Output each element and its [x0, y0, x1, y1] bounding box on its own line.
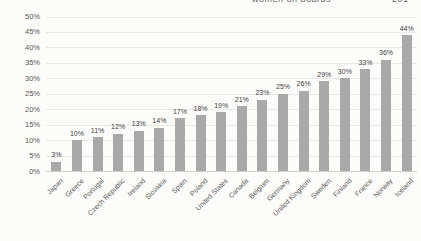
- bar-united-states: [216, 112, 226, 171]
- x-axis-category-label: Norway: [372, 177, 394, 199]
- x-axis-category-label: France: [353, 177, 373, 197]
- y-axis-tick-label: 15%: [0, 120, 40, 129]
- y-axis-tick-label: 25%: [0, 89, 40, 98]
- page-header-title: women on boards: [252, 0, 331, 4]
- gridline: [46, 32, 417, 33]
- bar-value-label: 44%: [394, 25, 420, 32]
- bar-ireland: [134, 131, 144, 171]
- bar-greece: [72, 140, 82, 171]
- x-axis-category-label: Japan: [46, 177, 64, 195]
- bar-value-label: 21%: [229, 96, 255, 103]
- y-axis-tick-label: 10%: [0, 136, 40, 145]
- bar-canada: [237, 106, 247, 171]
- x-axis-category-label: Iceland: [394, 177, 415, 198]
- x-axis-category-label: Canada: [227, 177, 249, 199]
- bar-france: [360, 69, 370, 171]
- bar-iceland: [402, 35, 412, 171]
- gridline: [46, 17, 417, 18]
- bar-value-label: 14%: [146, 117, 172, 124]
- bar-japan: [51, 162, 61, 171]
- bar-value-label: 26%: [291, 80, 317, 87]
- bar-belgium: [257, 100, 267, 171]
- y-axis-tick-label: 50%: [0, 12, 40, 21]
- x-axis-category-label: United Kingdom: [271, 177, 311, 217]
- bar-united-kingdom: [299, 91, 309, 171]
- y-axis-tick-label: 0%: [0, 167, 40, 176]
- bar-spain: [175, 118, 185, 171]
- bar-value-label: 3%: [43, 151, 69, 158]
- bar-finland: [340, 78, 350, 171]
- bar-sweden: [319, 81, 329, 171]
- y-axis-tick-label: 30%: [0, 74, 40, 83]
- y-axis-tick-label: 5%: [0, 151, 40, 160]
- x-axis-category-label: Spain: [170, 177, 188, 195]
- bar-poland: [196, 115, 206, 171]
- x-axis-line: [46, 171, 417, 172]
- bar-value-label: 36%: [373, 49, 399, 56]
- bar-czech-republic: [113, 134, 123, 171]
- y-axis-tick-label: 45%: [0, 27, 40, 36]
- page-header-page-number: 201: [392, 0, 409, 4]
- bar-value-label: 30%: [332, 68, 358, 75]
- bar-germany: [278, 94, 288, 171]
- bar-slovakia: [154, 128, 164, 171]
- bar-portugal: [93, 137, 103, 171]
- x-axis-category-label: Finland: [332, 177, 353, 198]
- bar-norway: [381, 60, 391, 171]
- y-axis-tick-label: 40%: [0, 43, 40, 52]
- bar-value-label: 33%: [352, 59, 378, 66]
- bar-value-label: 19%: [208, 102, 234, 109]
- y-axis-tick-label: 35%: [0, 58, 40, 67]
- bar-value-label: 23%: [249, 89, 275, 96]
- x-axis-category-label: Slovakia: [144, 177, 168, 201]
- x-axis-category-label: Sweden: [309, 177, 332, 200]
- y-axis-tick-label: 20%: [0, 105, 40, 114]
- page: women on boards 201 0%5%10%15%20%25%30%3…: [0, 0, 421, 241]
- gridline: [46, 47, 417, 48]
